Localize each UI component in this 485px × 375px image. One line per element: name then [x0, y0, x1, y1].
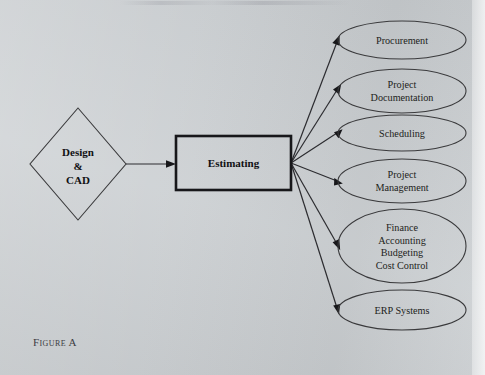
node-design-cad-line-2: CAD [66, 174, 90, 186]
node-design-cad-line-1: & [73, 160, 82, 172]
node-project-management-line-0: Project [388, 169, 417, 180]
connector-design-to-estimating [126, 160, 176, 168]
node-finance-accounting-line-0: Finance [386, 222, 419, 233]
node-procurement-line-0: Procurement [376, 35, 428, 46]
node-scheduling[interactable]: Scheduling [338, 115, 466, 151]
figure-page: Design & CAD Estimating Procurement Proj… [0, 0, 485, 375]
node-design-cad[interactable]: Design & CAD [30, 108, 126, 220]
node-project-management[interactable]: Project Management [338, 159, 466, 203]
node-finance-accounting-line-2: Budgeting [381, 247, 423, 258]
node-erp-systems-line-0: ERP Systems [375, 305, 430, 316]
node-project-management-line-1: Management [375, 182, 428, 193]
node-finance-accounting[interactable]: Finance Accounting Budgeting Cost Contro… [338, 209, 466, 283]
figure-caption: Figure A [33, 336, 77, 348]
connector-estimating-to-erp-systems [291, 163, 340, 315]
node-design-cad-line-0: Design [62, 146, 94, 158]
node-finance-accounting-line-3: Cost Control [376, 260, 429, 271]
node-project-documentation[interactable]: Project Documentation [338, 69, 466, 113]
node-project-documentation-line-1: Documentation [371, 92, 434, 103]
node-finance-accounting-line-1: Accounting [378, 235, 426, 246]
node-procurement[interactable]: Procurement [338, 21, 466, 59]
node-scheduling-line-0: Scheduling [379, 128, 425, 139]
node-erp-systems[interactable]: ERP Systems [338, 290, 466, 330]
connector-estimating-to-scheduling [291, 129, 343, 163]
connector-estimating-to-finance [291, 163, 340, 250]
node-estimating[interactable]: Estimating [176, 136, 291, 190]
flow-diagram: Design & CAD Estimating Procurement Proj… [0, 0, 485, 375]
node-estimating-label: Estimating [208, 157, 260, 169]
node-project-documentation-line-0: Project [388, 79, 417, 90]
connector-estimating-to-project-management [291, 163, 343, 185]
connector-estimating-to-procurement [291, 35, 340, 163]
